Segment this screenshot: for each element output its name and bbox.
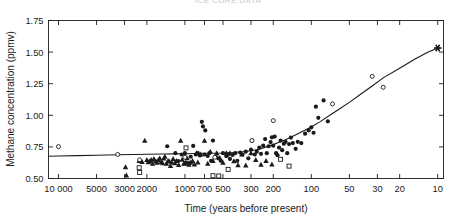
- data-point-filled-circle: [263, 137, 267, 141]
- y-tick-label: 1.50: [25, 48, 43, 58]
- data-point-filled-circle: [200, 120, 204, 124]
- data-point-filled-triangle: [195, 159, 200, 164]
- data-point-filled-triangle: [258, 162, 263, 167]
- y-axis-title: Methane concentration (ppmv): [5, 31, 16, 167]
- data-point-filled-triangle: [142, 138, 147, 143]
- data-point-filled-circle: [211, 138, 215, 142]
- data-point-open-square: [287, 164, 291, 168]
- data-point-open-circle: [116, 152, 120, 156]
- x-tick-label: 700: [197, 184, 213, 194]
- data-point-filled-circle: [261, 144, 265, 148]
- data-point-filled-circle: [189, 155, 193, 159]
- data-point-asterisk: [434, 45, 441, 51]
- data-point-filled-triangle: [123, 164, 128, 169]
- data-point-open-circle: [370, 74, 374, 78]
- x-tick-label: 50: [344, 184, 354, 194]
- fitted-trend-line: [49, 48, 438, 156]
- data-point-open-square: [184, 146, 188, 150]
- x-tick-label: 2000: [137, 184, 158, 194]
- methane-ice-core-figure: ICE CORE DATA 10 00050003000200010007005…: [0, 0, 456, 222]
- data-point-open-circle: [57, 145, 61, 149]
- data-point-filled-circle: [183, 151, 187, 155]
- x-tick-label: 500: [215, 184, 231, 194]
- data-point-open-circle: [213, 155, 217, 159]
- data-point-filled-circle: [285, 151, 289, 155]
- data-point-open-square: [211, 174, 215, 178]
- data-point-filled-triangle: [263, 158, 268, 163]
- data-point-filled-circle: [299, 141, 303, 145]
- x-tick-label: 5000: [86, 184, 107, 194]
- data-point-filled-circle: [259, 152, 263, 156]
- series-filled-triangles: [123, 138, 275, 178]
- data-point-filled-circle: [321, 98, 325, 102]
- data-point-filled-triangle: [202, 138, 207, 143]
- data-point-open-circle: [271, 119, 275, 123]
- chart-canvas: 10 0005000300020001000700500300200100503…: [0, 0, 456, 222]
- data-point-filled-circle: [283, 140, 287, 144]
- data-point-filled-circle: [191, 144, 195, 148]
- x-tick-label: 300: [243, 184, 259, 194]
- data-point-open-square: [226, 167, 230, 171]
- data-point-filled-circle: [244, 150, 248, 154]
- y-tick-label: 1.25: [25, 79, 43, 89]
- data-point-filled-circle: [278, 138, 282, 142]
- x-tick-label: 100: [304, 184, 320, 194]
- data-point-filled-triangle: [162, 154, 167, 159]
- data-point-open-circle: [250, 139, 254, 143]
- x-axis-tick-labels: 10 0005000300020001000700500300200100503…: [44, 184, 443, 194]
- data-point-filled-circle: [314, 105, 318, 109]
- data-point-filled-triangle: [243, 162, 248, 167]
- y-tick-label: 0.75: [25, 142, 43, 152]
- y-tick-label: 0.50: [25, 174, 43, 184]
- data-point-filled-circle: [289, 135, 293, 139]
- data-point-filled-circle: [291, 141, 295, 145]
- data-point-filled-circle: [294, 147, 298, 151]
- x-tick-label: 30: [372, 184, 382, 194]
- data-point-filled-circle: [233, 151, 237, 155]
- data-point-filled-circle: [275, 153, 279, 157]
- x-tick-label: 20: [394, 184, 404, 194]
- data-point-filled-circle: [266, 144, 270, 148]
- data-point-filled-circle: [309, 125, 313, 129]
- data-point-filled-circle: [326, 119, 330, 123]
- data-point-filled-circle: [173, 151, 177, 155]
- data-point-filled-circle: [265, 151, 269, 155]
- y-axis-tick-labels: 0.500.751.001.251.501.75: [25, 16, 43, 184]
- x-tick-label: 1000: [175, 184, 196, 194]
- series-filled-circles: [165, 98, 330, 165]
- data-point-filled-circle: [303, 132, 307, 136]
- data-point-open-circle: [330, 102, 334, 106]
- data-point-open-square: [217, 174, 221, 178]
- data-point-filled-circle: [228, 157, 232, 161]
- data-point-filled-circle: [273, 134, 277, 138]
- data-point-filled-circle: [257, 146, 261, 150]
- data-point-filled-triangle: [253, 157, 258, 162]
- data-point-open-circle: [138, 158, 142, 162]
- data-point-open-square: [137, 166, 141, 170]
- data-point-filled-circle: [271, 144, 275, 148]
- data-point-open-circle: [381, 85, 385, 89]
- data-point-filled-circle: [203, 128, 207, 132]
- data-point-open-square: [279, 157, 283, 161]
- data-point-markers: [57, 45, 442, 178]
- data-point-open-square: [138, 170, 142, 174]
- data-point-filled-circle: [268, 140, 272, 144]
- x-tick-label: 10 000: [44, 184, 72, 194]
- data-point-filled-triangle: [170, 156, 175, 161]
- data-point-filled-circle: [316, 116, 320, 120]
- data-point-filled-circle: [201, 124, 205, 128]
- data-point-filled-circle: [255, 150, 259, 154]
- data-point-open-circle: [183, 155, 187, 159]
- data-point-filled-circle: [311, 131, 315, 135]
- series-open-circles: [57, 74, 386, 161]
- y-tick-label: 1.00: [25, 111, 43, 121]
- x-tick-label: 10: [433, 184, 443, 194]
- y-tick-label: 1.75: [25, 16, 43, 26]
- data-point-filled-triangle: [178, 138, 183, 143]
- data-point-filled-circle: [280, 148, 284, 152]
- data-point-filled-circle: [287, 142, 291, 146]
- series-modern-measurement: [434, 45, 441, 51]
- x-tick-label: 3000: [114, 184, 135, 194]
- data-point-filled-circle: [165, 144, 169, 148]
- data-point-filled-triangle: [208, 149, 213, 154]
